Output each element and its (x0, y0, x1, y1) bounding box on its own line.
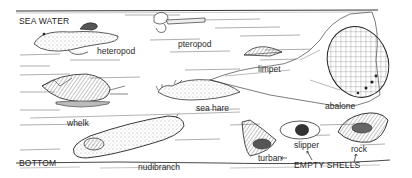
label-turban: turban (258, 154, 282, 163)
zone-label-bottom: BOTTOM (19, 159, 56, 168)
whelk-drawing (42, 74, 128, 107)
label-pteropod: pteropod (178, 40, 212, 49)
label-rock: rock (351, 145, 367, 154)
turban-shell-drawing (242, 120, 276, 156)
water-surface (16, 10, 378, 13)
slipper-shell-drawing (280, 121, 320, 139)
marine-mollusk-illustration: SEA WATER BOTTOM heteropod pteropod limp… (0, 0, 412, 178)
label-sea-hare: sea hare (196, 104, 229, 113)
label-heteropod: heteropod (97, 47, 135, 56)
label-slipper: slipper (294, 141, 319, 150)
label-abalone: abalone (325, 102, 355, 111)
limpet-drawing (244, 47, 282, 56)
rock-shell-drawing (338, 113, 388, 142)
label-limpet: limpet (258, 65, 281, 74)
label-nudibranch: nudibranch (138, 163, 180, 172)
label-whelk: whelk (67, 119, 89, 128)
nudibranch-drawing (73, 114, 184, 158)
pteropod-drawing (154, 12, 205, 32)
label-empty-shells: EMPTY SHELLS (294, 161, 361, 170)
zone-label-sea-water: SEA WATER (19, 17, 69, 26)
